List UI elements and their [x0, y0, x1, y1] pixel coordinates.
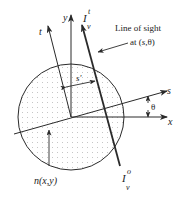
line-of-sight-label-1: Line of sight — [115, 23, 161, 33]
intensity-bottom-label: I o ν — [121, 167, 131, 192]
s-axis-label: s — [167, 85, 171, 96]
theta-label: θ — [151, 102, 155, 112]
tomography-diagram: y x s t s' θ I t ν I o ν Line of sight a… — [0, 0, 186, 198]
x-axis-label: x — [167, 116, 173, 127]
density-label: n(x,y) — [34, 175, 58, 187]
y-axis-label: y — [62, 12, 68, 23]
t-axis-label: t — [39, 26, 42, 37]
line-of-sight-pointer — [98, 43, 128, 52]
svg-text:o: o — [127, 167, 131, 176]
svg-text:ν: ν — [87, 22, 91, 31]
line-of-sight-label-2: at (s,θ) — [130, 37, 155, 47]
svg-text:ν: ν — [126, 183, 130, 192]
svg-text:t: t — [88, 7, 91, 16]
